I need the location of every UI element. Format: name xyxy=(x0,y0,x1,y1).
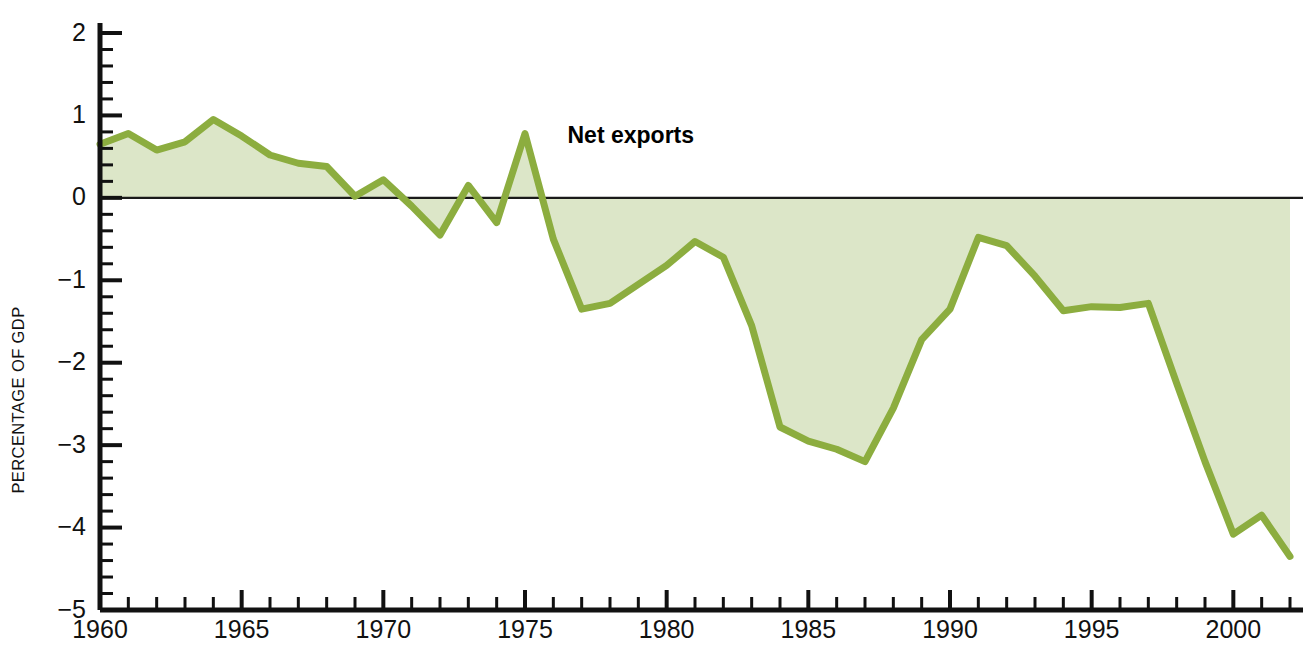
y-tick-label: −2 xyxy=(57,347,86,375)
y-tick-label: 2 xyxy=(72,18,86,46)
y-axis-ticks xyxy=(100,33,122,610)
series-annotation-net-exports: Net exports xyxy=(568,122,695,148)
chart-canvas: 210−1−2−3−4−5 19601965197019751980198519… xyxy=(0,0,1305,645)
x-tick-label: 1990 xyxy=(922,615,978,643)
y-tick-label: −1 xyxy=(57,265,86,293)
x-tick-label: 1980 xyxy=(639,615,695,643)
x-tick-label: 1985 xyxy=(781,615,837,643)
y-axis-title: PERCENTAGE OF GDP xyxy=(9,306,27,493)
y-tick-label: −3 xyxy=(57,430,86,458)
y-tick-label: −4 xyxy=(57,512,86,540)
x-tick-label: 1970 xyxy=(356,615,412,643)
net-exports-area xyxy=(100,120,1290,557)
x-tick-label: 1995 xyxy=(1064,615,1120,643)
x-axis-tick-labels: 196019651970197519801985199019952000 xyxy=(72,615,1261,643)
net-exports-chart: 210−1−2−3−4−5 19601965197019751980198519… xyxy=(0,0,1305,645)
y-tick-label: 1 xyxy=(72,100,86,128)
x-tick-label: 1975 xyxy=(497,615,553,643)
x-tick-label: 2000 xyxy=(1206,615,1262,643)
y-axis-tick-labels: 210−1−2−3−4−5 xyxy=(57,18,86,623)
y-tick-label: 0 xyxy=(72,182,86,210)
x-tick-label: 1960 xyxy=(72,615,128,643)
x-axis-ticks xyxy=(100,590,1290,610)
x-tick-label: 1965 xyxy=(214,615,270,643)
